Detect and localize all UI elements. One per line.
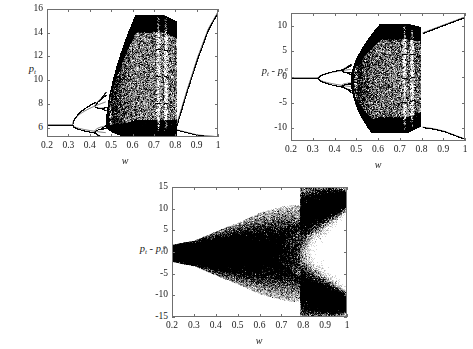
chart-panel-error-bifurcation: pt - pte -10-50510 0.20.30.40.50.60.70.8… bbox=[232, 0, 473, 175]
y-tick-mark bbox=[344, 252, 347, 253]
y-tick-mark bbox=[47, 33, 50, 34]
panel-b-x-axis-label: w bbox=[375, 160, 382, 170]
panel-c-plot-area bbox=[172, 187, 347, 317]
x-tick-mark bbox=[68, 134, 69, 137]
y-tick-label: 10 bbox=[17, 75, 43, 85]
y-tick-label: 6 bbox=[17, 123, 43, 133]
x-tick-mark bbox=[325, 314, 326, 317]
y-tick-mark bbox=[215, 80, 218, 81]
x-tick-mark bbox=[238, 187, 239, 190]
y-tick-mark bbox=[47, 80, 50, 81]
y-tick-label: -10 bbox=[142, 290, 168, 300]
x-tick-label: 0.9 bbox=[431, 145, 455, 155]
y-tick-mark bbox=[172, 252, 175, 253]
chart-panel-noisy-error-bifurcation: pt - pte -15-10-5051015 0.20.30.40.50.60… bbox=[110, 175, 360, 349]
x-tick-mark bbox=[133, 134, 134, 137]
x-tick-label: 0.2 bbox=[279, 145, 303, 155]
y-tick-mark bbox=[462, 26, 465, 27]
y-tick-label: 5 bbox=[142, 225, 168, 235]
y-tick-mark bbox=[462, 51, 465, 52]
x-tick-mark bbox=[197, 9, 198, 12]
x-tick-mark bbox=[238, 314, 239, 317]
x-tick-mark bbox=[47, 9, 48, 12]
x-tick-mark bbox=[281, 187, 282, 190]
y-tick-label: -5 bbox=[261, 98, 287, 108]
y-tick-mark bbox=[344, 317, 347, 318]
x-tick-mark bbox=[133, 9, 134, 12]
x-tick-mark bbox=[422, 13, 423, 16]
y-tick-mark bbox=[462, 77, 465, 78]
x-tick-label: 1 bbox=[206, 141, 230, 151]
x-tick-label: 0.8 bbox=[291, 321, 315, 331]
y-tick-label: 10 bbox=[142, 204, 168, 214]
x-tick-mark bbox=[216, 187, 217, 190]
y-tick-mark bbox=[215, 33, 218, 34]
y-tick-mark bbox=[172, 230, 175, 231]
x-tick-label: 1 bbox=[335, 321, 359, 331]
x-tick-mark bbox=[291, 13, 292, 16]
x-tick-label: 0.3 bbox=[301, 145, 325, 155]
panel-b-plot-area bbox=[291, 13, 465, 141]
x-tick-mark bbox=[260, 187, 261, 190]
y-tick-mark bbox=[215, 104, 218, 105]
x-tick-mark bbox=[356, 138, 357, 141]
y-tick-mark bbox=[291, 26, 294, 27]
x-tick-mark bbox=[175, 134, 176, 137]
x-tick-mark bbox=[465, 138, 466, 141]
x-tick-mark bbox=[378, 138, 379, 141]
y-tick-mark bbox=[47, 104, 50, 105]
x-tick-mark bbox=[47, 134, 48, 137]
y-tick-label: 16 bbox=[17, 4, 43, 14]
chart-panel-price-bifurcation: pt 6810121416 0.20.30.40.50.60.70.80.91 … bbox=[0, 0, 232, 175]
x-tick-mark bbox=[260, 314, 261, 317]
panel-c-x-axis-label: w bbox=[256, 336, 263, 346]
y-tick-label: 10 bbox=[261, 21, 287, 31]
x-tick-label: 0.6 bbox=[366, 145, 390, 155]
x-tick-label: 0.4 bbox=[204, 321, 228, 331]
x-tick-mark bbox=[154, 134, 155, 137]
x-tick-label: 0.8 bbox=[410, 145, 434, 155]
y-tick-label: 12 bbox=[17, 51, 43, 61]
x-tick-mark bbox=[216, 314, 217, 317]
y-tick-mark bbox=[172, 209, 175, 210]
x-tick-mark bbox=[443, 13, 444, 16]
x-tick-mark bbox=[422, 138, 423, 141]
x-tick-mark bbox=[325, 187, 326, 190]
x-tick-label: 0.6 bbox=[248, 321, 272, 331]
y-tick-mark bbox=[47, 128, 50, 129]
x-tick-mark bbox=[443, 138, 444, 141]
y-tick-mark bbox=[291, 51, 294, 52]
x-tick-label: 0.7 bbox=[388, 145, 412, 155]
y-tick-label: 0 bbox=[261, 72, 287, 82]
x-tick-mark bbox=[400, 13, 401, 16]
x-tick-mark bbox=[335, 138, 336, 141]
x-tick-mark bbox=[175, 9, 176, 12]
x-tick-label: 0.9 bbox=[313, 321, 337, 331]
y-tick-label: 15 bbox=[142, 182, 168, 192]
y-tick-mark bbox=[172, 295, 175, 296]
y-tick-mark bbox=[215, 128, 218, 129]
y-tick-mark bbox=[172, 317, 175, 318]
x-tick-mark bbox=[281, 314, 282, 317]
y-tick-mark bbox=[344, 209, 347, 210]
x-tick-mark bbox=[194, 187, 195, 190]
x-tick-mark bbox=[291, 138, 292, 141]
x-tick-mark bbox=[313, 13, 314, 16]
x-tick-label: 0.5 bbox=[226, 321, 250, 331]
x-tick-mark bbox=[68, 9, 69, 12]
y-tick-mark bbox=[215, 56, 218, 57]
x-tick-mark bbox=[90, 134, 91, 137]
x-tick-mark bbox=[154, 9, 155, 12]
y-tick-mark bbox=[291, 103, 294, 104]
x-tick-mark bbox=[111, 134, 112, 137]
y-tick-label: -5 bbox=[142, 269, 168, 279]
y-tick-mark bbox=[172, 274, 175, 275]
y-tick-mark bbox=[344, 295, 347, 296]
y-tick-mark bbox=[462, 128, 465, 129]
x-tick-mark bbox=[172, 314, 173, 317]
x-tick-mark bbox=[347, 314, 348, 317]
x-tick-mark bbox=[111, 9, 112, 12]
x-tick-mark bbox=[194, 314, 195, 317]
y-tick-label: 8 bbox=[17, 99, 43, 109]
y-tick-mark bbox=[462, 103, 465, 104]
